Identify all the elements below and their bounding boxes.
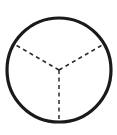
circle-diagram: A circle outlined with a solid dark stro…: [0, 0, 117, 135]
figure-container: A circle outlined with a solid dark stro…: [0, 0, 117, 135]
diagram-background: [0, 0, 117, 135]
